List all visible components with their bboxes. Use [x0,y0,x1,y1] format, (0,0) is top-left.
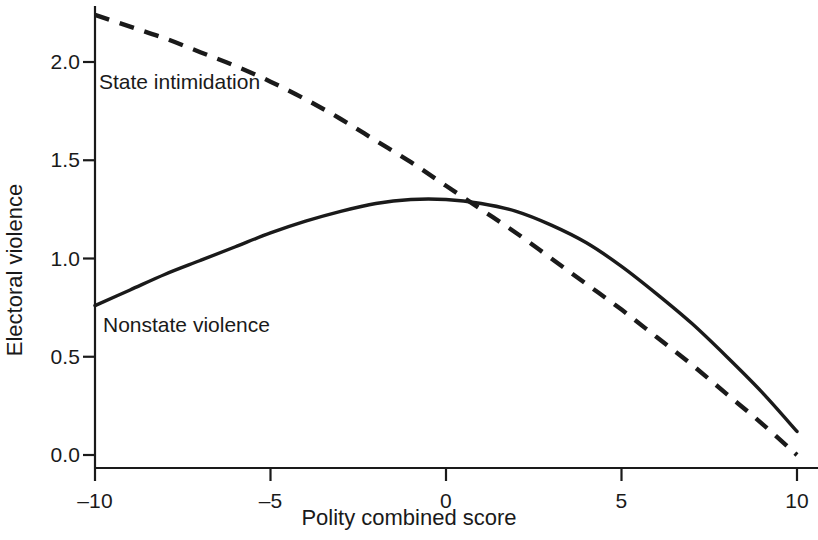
tick-marks [83,62,797,481]
series-label-state-intimidation: State intimidation [99,70,260,94]
x-axis-title: Polity combined score [0,505,818,531]
series-label-nonstate-violence: Nonstate violence [103,313,270,337]
chart-figure: 0.00.51.01.52.0 –10–50510 Polity combine… [0,0,818,540]
y-axis-title: Electoral violence [0,0,30,540]
